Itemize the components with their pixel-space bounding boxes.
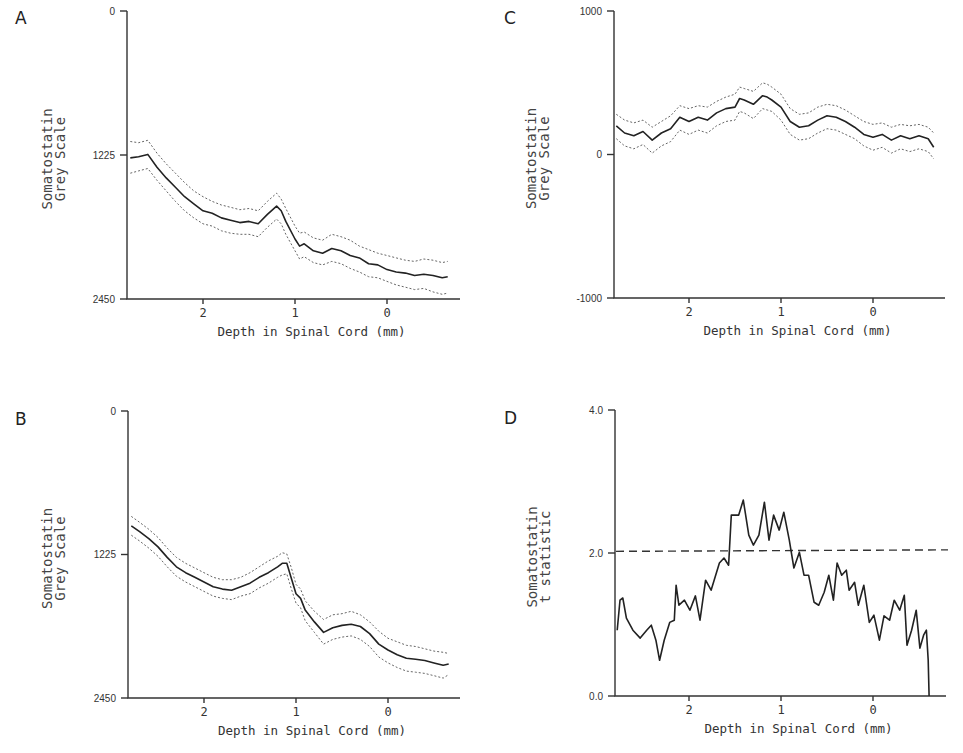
x-tick-label: 0: [869, 703, 876, 717]
x-tick-label: 2: [685, 703, 692, 717]
y-tick-label: 0: [596, 149, 602, 160]
mean-trace: [616, 96, 933, 148]
y-axis-title: Grey Scale: [536, 116, 552, 200]
panel-letter: D: [504, 408, 517, 428]
y-tick-label: 4.0: [589, 405, 603, 416]
y-tick-label: 0.0: [589, 691, 603, 702]
x-tick-label: 0: [384, 705, 391, 719]
x-tick-label: 0: [383, 306, 390, 320]
confidence-band-trace: [130, 169, 447, 295]
x-axis-title: Depth in Spinal Cord (mm): [703, 323, 891, 338]
y-tick-label: 2450: [94, 693, 117, 704]
x-tick-label: 1: [777, 305, 784, 319]
confidence-band-trace: [131, 516, 448, 653]
figure: A 012252450210Depth in Spinal Cord (mm)S…: [0, 0, 963, 753]
y-tick-label: 2450: [93, 294, 116, 305]
panel-a: A 012252450210Depth in Spinal Cord (mm)S…: [15, 6, 460, 340]
x-tick-label: 2: [685, 305, 692, 319]
y-tick-label: 0: [109, 6, 115, 17]
axis-lines: [614, 11, 945, 298]
x-tick-label: 2: [200, 705, 207, 719]
y-tick-label: 1225: [94, 549, 117, 560]
y-axis-title: Grey Scale: [52, 516, 68, 600]
x-axis-title: Depth in Spinal Cord (mm): [217, 324, 405, 339]
significance-threshold-line: [616, 550, 948, 552]
panel-letter: C: [504, 8, 516, 28]
y-axis-title: Grey Scale: [52, 117, 68, 201]
panel-letter: A: [15, 8, 27, 28]
confidence-band-trace: [616, 83, 933, 133]
x-axis-title: Depth in Spinal Cord (mm): [704, 721, 892, 736]
y-tick-label: 1000: [580, 6, 603, 17]
y-tick-label: -1000: [576, 293, 602, 304]
x-tick-label: 1: [291, 306, 298, 320]
x-tick-label: 1: [292, 705, 299, 719]
axis-lines: [615, 410, 946, 696]
axis-lines: [128, 411, 460, 698]
y-tick-label: 1225: [93, 150, 116, 161]
x-tick-label: 2: [199, 306, 206, 320]
y-tick-label: 0: [110, 406, 116, 417]
y-tick-label: 2.0: [589, 548, 603, 559]
axis-lines: [127, 11, 460, 299]
mean-trace: [617, 500, 929, 696]
mean-trace: [131, 526, 448, 665]
confidence-band-trace: [130, 140, 447, 262]
panel-c: C 10000-1000210Depth in Spinal Cord (mm)…: [504, 6, 945, 339]
confidence-band-trace: [616, 109, 933, 159]
panel-b: B 012252450210Depth in Spinal Cord (mm)S…: [15, 406, 460, 739]
panel-d: D 4.02.00.0210Depth in Spinal Cord (mm)S…: [504, 405, 948, 737]
x-axis-title: Depth in Spinal Cord (mm): [218, 723, 406, 738]
x-tick-label: 0: [869, 305, 876, 319]
x-tick-label: 1: [777, 703, 784, 717]
y-axis-title: t statistic: [537, 511, 553, 604]
panel-letter: B: [15, 409, 27, 429]
